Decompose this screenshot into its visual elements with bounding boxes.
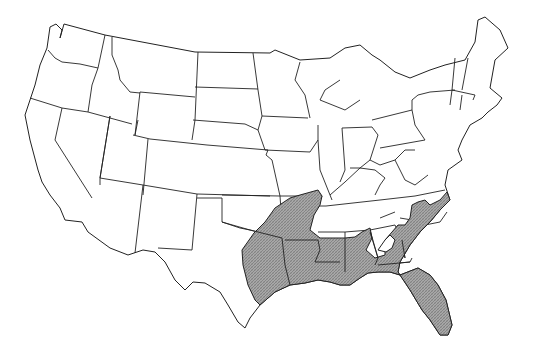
map-svg [0,0,533,347]
us-map: Contiguous United States [0,0,533,347]
